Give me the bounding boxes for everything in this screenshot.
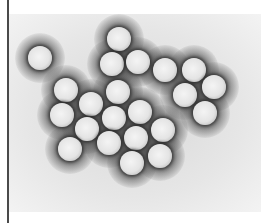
particle	[100, 52, 124, 76]
particle	[28, 46, 52, 70]
particle	[58, 137, 82, 161]
particle	[106, 80, 130, 104]
particle	[97, 131, 121, 155]
particle	[173, 83, 197, 107]
particle	[75, 117, 99, 141]
particle	[102, 106, 126, 130]
particle	[182, 58, 206, 82]
micrograph-image	[9, 14, 261, 212]
particle	[153, 58, 177, 82]
particle	[120, 151, 144, 175]
particle	[124, 126, 148, 150]
particle	[151, 118, 175, 142]
particle	[202, 75, 226, 99]
particle	[128, 100, 152, 124]
particle	[126, 50, 150, 74]
particle	[54, 78, 78, 102]
particle	[50, 103, 74, 127]
particle	[79, 92, 103, 116]
particle	[107, 27, 131, 51]
particle	[193, 101, 217, 125]
particle	[148, 144, 172, 168]
